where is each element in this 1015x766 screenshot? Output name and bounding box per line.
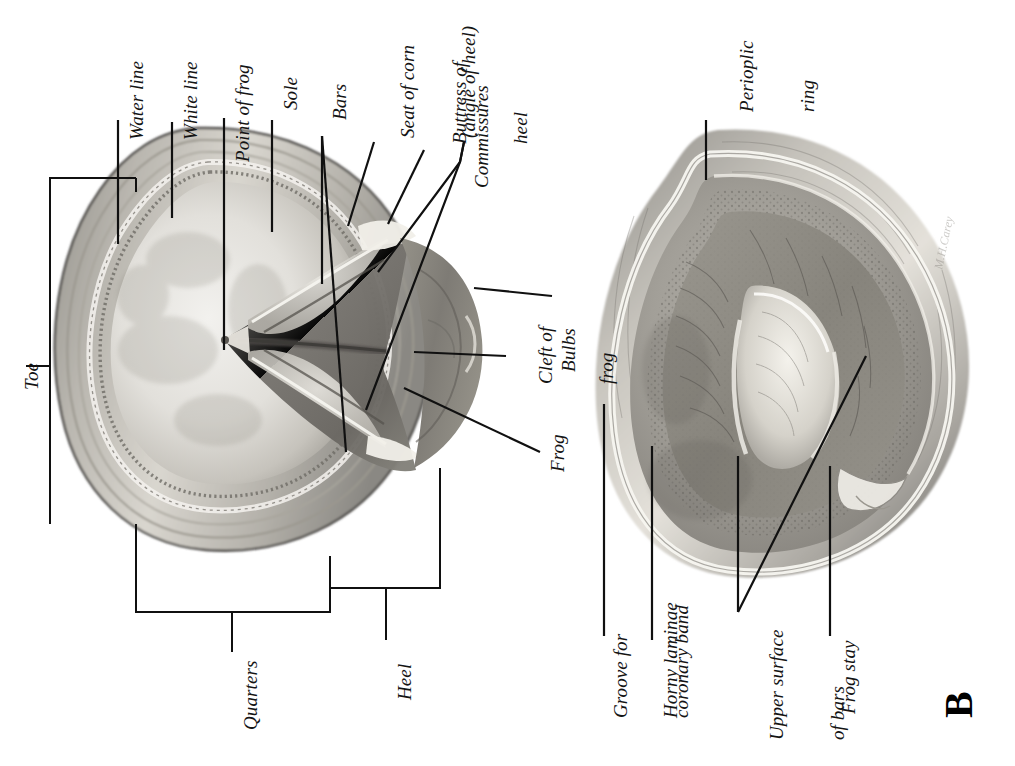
- label-horny-laminae: Horny laminae: [661, 602, 680, 718]
- label-toe: Toe: [22, 363, 41, 390]
- label-frog-stay: Frog stay: [839, 640, 858, 714]
- label-frog: Frog: [548, 434, 567, 472]
- label-commissures: Commissures: [472, 85, 491, 188]
- label-point-of-frog: Point of frog: [233, 64, 252, 162]
- label-buttress-of-heel-line2: heel: [511, 62, 531, 144]
- label-sole: Sole: [281, 77, 300, 110]
- panel-letter-b: B: [935, 691, 982, 718]
- figure-canvas: M.H.Carey: [0, 0, 1015, 766]
- label-heel: Heel: [395, 664, 414, 700]
- label-quarters: Quarters: [241, 661, 260, 730]
- label-groove-coronary-band-line1: Groove for: [611, 605, 631, 718]
- label-bars: Bars: [330, 84, 349, 120]
- label-cleft-of-frog-line2: frog: [597, 327, 617, 384]
- label-cleft-of-frog-line1: Cleft of: [536, 327, 556, 384]
- label-upper-surface-of-bars: Upper surface of bars: [727, 629, 888, 740]
- label-buttress-of-heel-line1: Buttress of: [450, 62, 470, 144]
- label-perioplic-ring-line2: ring: [798, 40, 818, 112]
- panel-a-hoof-illustration: [48, 120, 508, 560]
- label-perioplic-ring: Perioplic ring: [697, 40, 858, 112]
- label-upper-surface-of-bars-line1: Upper surface: [767, 629, 787, 740]
- label-water-line: Water line: [127, 61, 146, 140]
- label-groove-coronary-band: Groove for coronary band: [571, 605, 732, 718]
- label-perioplic-ring-line1: Perioplic: [737, 40, 757, 112]
- label-white-line: White line: [181, 61, 200, 140]
- label-bulbs: Bulbs: [559, 328, 578, 372]
